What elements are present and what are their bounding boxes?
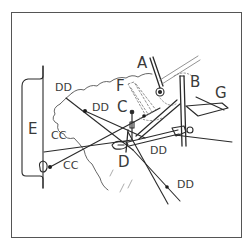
- label-f: F: [116, 79, 125, 94]
- cable-dd-mid: [85, 111, 145, 138]
- lever-a: [150, 57, 163, 88]
- label-dd-mid: DD: [92, 102, 109, 113]
- surface-edge-upper: [72, 73, 152, 93]
- node-dd-upper: [83, 109, 87, 113]
- label-g: G: [215, 86, 227, 101]
- node-dd-lower: [165, 185, 169, 189]
- label-cc-lower: CC: [63, 160, 78, 171]
- cable-dd-lower-a: [133, 150, 180, 201]
- label-dd-bottom: DD: [177, 179, 194, 190]
- label-dd-right: DD: [150, 145, 167, 156]
- cable-dd-lower-b: [128, 132, 168, 204]
- label-b: B: [190, 75, 200, 90]
- cable-dd-right: [175, 135, 232, 142]
- node-c: [142, 114, 146, 118]
- label-dd-top: DD: [55, 82, 72, 93]
- label-d: D: [118, 155, 130, 170]
- label-e: E: [28, 122, 37, 137]
- label-a: A: [137, 56, 147, 71]
- linkage-drawing: [0, 0, 250, 248]
- node-cc: [48, 165, 52, 169]
- label-c: C: [117, 100, 127, 115]
- label-cc-upper: CC: [51, 130, 66, 141]
